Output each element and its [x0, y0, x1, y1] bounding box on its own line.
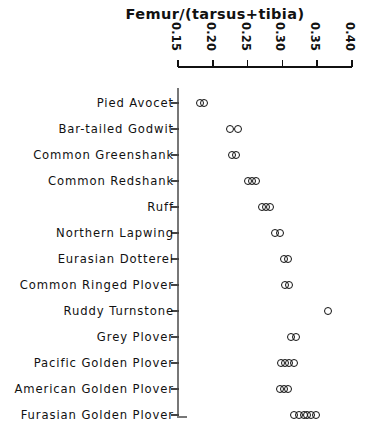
x-tick: [212, 60, 214, 67]
data-point: [292, 333, 300, 341]
category-label: Grey Plover: [97, 330, 174, 344]
category-label: Common Redshank: [48, 174, 174, 188]
x-tick-label: 0.40: [343, 22, 357, 51]
data-point: [284, 385, 292, 393]
category-label: Ruddy Turnstone: [64, 304, 174, 318]
data-point: [284, 255, 292, 263]
x-tick-label: 0.30: [273, 22, 287, 51]
category-label: Furasian Golden Plover: [21, 408, 174, 422]
category-label: Common Greenshank: [33, 148, 174, 162]
y-axis-corner-tick: [177, 416, 187, 418]
x-tick: [316, 60, 318, 67]
x-tick: [282, 60, 284, 67]
category-label: Eurasian Dotterel: [58, 252, 174, 266]
x-tick-label: 0.35: [308, 22, 322, 51]
category-label: American Golden Plover: [14, 382, 174, 396]
data-point: [285, 281, 293, 289]
data-point: [324, 307, 332, 315]
x-tick: [351, 60, 353, 67]
scatter-chart: Femur/(tarsus+tibia) 0.150.200.250.300.3…: [0, 0, 370, 435]
x-tick-label: 0.15: [169, 22, 183, 51]
data-point: [290, 359, 298, 367]
category-label: Bar-tailed Godwit: [58, 122, 174, 136]
data-point: [252, 177, 260, 185]
y-axis-line: [177, 88, 179, 418]
data-point: [276, 229, 284, 237]
category-label: Ruff: [147, 200, 174, 214]
data-point: [200, 99, 208, 107]
data-point: [312, 411, 320, 419]
x-tick-label: 0.20: [204, 22, 218, 51]
category-label: Northern Lapwing: [56, 226, 174, 240]
x-axis-line: [178, 66, 352, 68]
data-point: [234, 125, 242, 133]
x-tick-label: 0.25: [239, 22, 253, 51]
data-point: [266, 203, 274, 211]
category-label: Common Ringed Plover: [20, 278, 174, 292]
category-label: Pied Avocet: [97, 96, 174, 110]
x-tick: [177, 60, 179, 67]
category-label: Pacific Golden Plover: [34, 356, 174, 370]
data-point: [226, 125, 234, 133]
x-tick: [247, 60, 249, 67]
data-point: [232, 151, 240, 159]
chart-title: Femur/(tarsus+tibia): [0, 6, 370, 22]
